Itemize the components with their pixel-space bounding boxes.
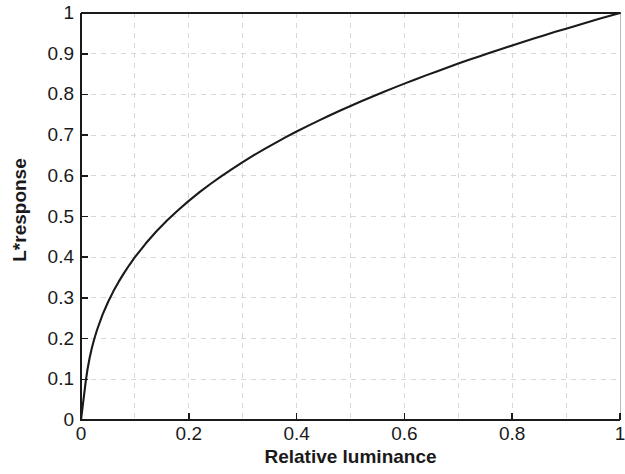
gridlines (81, 13, 620, 420)
x-axis-title: Relative luminance (81, 446, 620, 468)
